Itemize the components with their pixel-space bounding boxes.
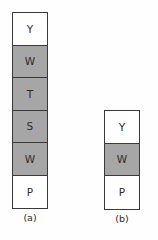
stack-b: YWP <box>104 110 140 210</box>
stack-a-cell-3-label: S <box>27 121 34 132</box>
stack-group-b: YWP (b) <box>104 110 140 223</box>
stack-a-cell-5: P <box>13 176 47 209</box>
stack-a-caption: (a) <box>23 213 36 223</box>
stack-b-cell-1: W <box>105 144 139 177</box>
stack-a-cell-2-label: T <box>27 89 34 100</box>
stack-a-cell-2: T <box>13 78 47 111</box>
stack-a-cell-4: W <box>13 143 47 176</box>
stack-a-cell-1: W <box>13 46 47 79</box>
stack-b-cell-1-label: W <box>117 154 128 165</box>
stack-b-cell-2-label: P <box>119 187 126 198</box>
stack-a-cell-0-label: Y <box>27 24 34 35</box>
stack-a-cell-5-label: P <box>27 187 34 198</box>
stack-a-cell-4-label: W <box>25 154 36 165</box>
stack-b-cell-0: Y <box>105 111 139 144</box>
stack-a-cell-0: Y <box>13 13 47 46</box>
stack-a: YWTSWP <box>12 12 48 209</box>
stack-diagram-figure: YWTSWP (a) YWP (b) <box>0 0 158 240</box>
stack-a-cell-3: S <box>13 111 47 144</box>
stack-a-cell-1-label: W <box>25 56 36 67</box>
stack-b-cell-2: P <box>105 176 139 209</box>
stack-group-a: YWTSWP (a) <box>12 12 48 223</box>
stack-b-cell-0-label: Y <box>119 122 126 133</box>
stack-b-caption: (b) <box>115 214 128 224</box>
